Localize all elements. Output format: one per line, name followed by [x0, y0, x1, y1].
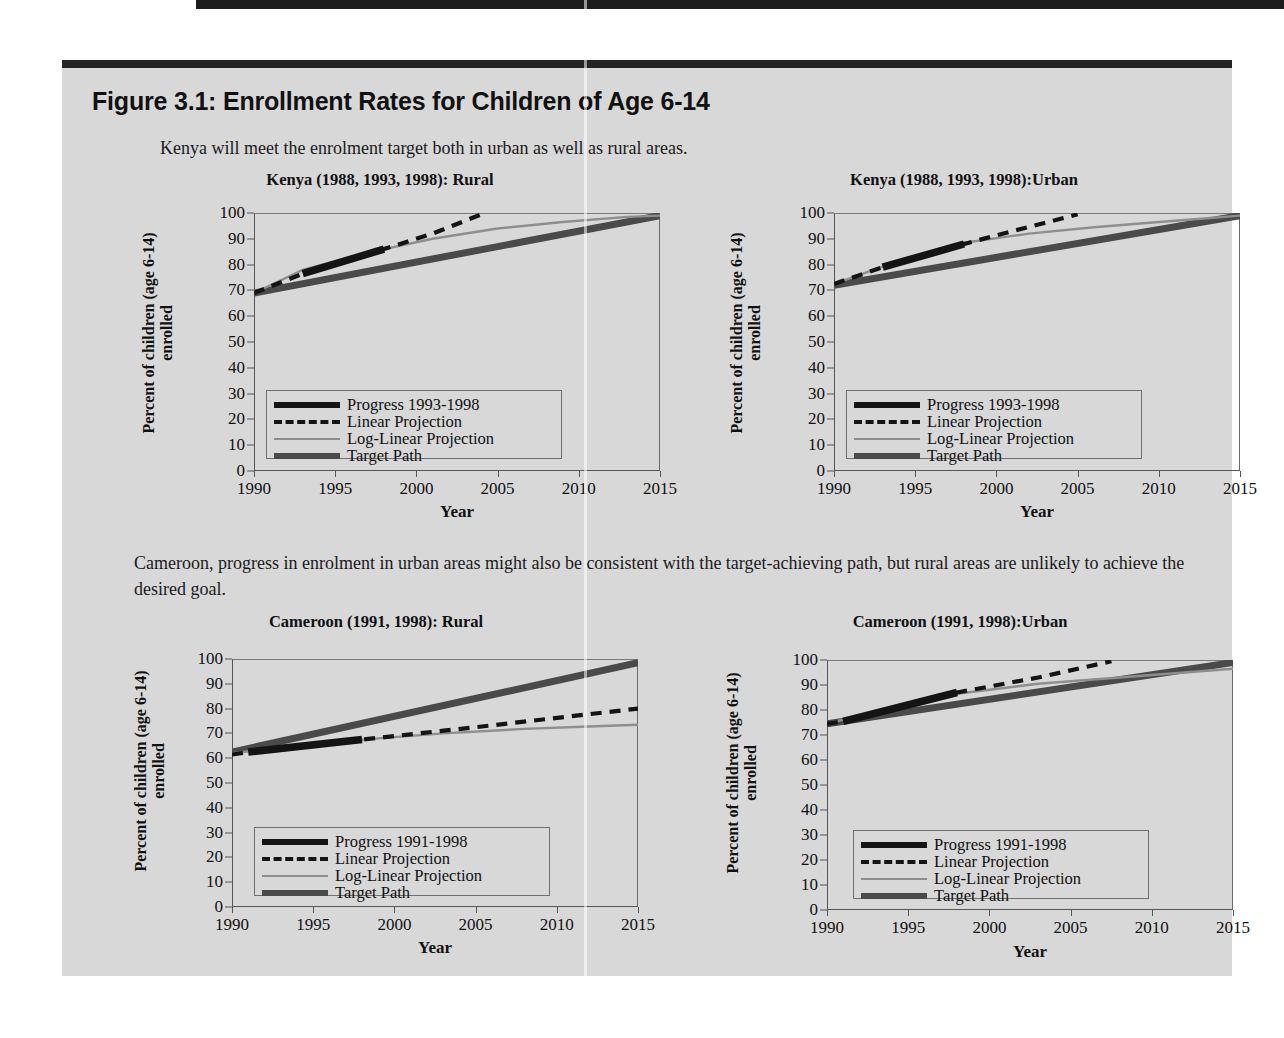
ytick-label: 90 — [228, 229, 254, 249]
xtick-label: 1995 — [296, 907, 330, 935]
plot-area-cameroon-rural: 0 10 20 30 40 50 60 70 80 90 100 1990 19… — [232, 659, 638, 907]
legend-swatch-linear-icon — [854, 415, 920, 429]
ytick-label: 20 — [801, 850, 827, 870]
ytick-label: 70 — [228, 280, 254, 300]
legend-item: Progress 1991-1998 — [861, 836, 1140, 853]
legend-item: Target Path — [274, 447, 553, 464]
legend-swatch-target-icon — [861, 889, 927, 903]
y-axis-title-line1: Percent of children (age 6-14) — [724, 672, 741, 873]
legend-swatch-linear-icon — [861, 855, 927, 869]
ytick-label: 20 — [228, 409, 254, 429]
ytick-label: 100 — [220, 203, 255, 223]
legend-swatch-target-icon — [262, 886, 328, 900]
legend-item: Log-Linear Projection — [854, 430, 1133, 447]
legend-label: Target Path — [347, 446, 422, 466]
legend-item: Progress 1993-1998 — [274, 396, 553, 413]
legend-swatch-progress-icon — [262, 835, 328, 849]
legend-swatch-linear-icon — [262, 852, 328, 866]
ytick-label: 60 — [206, 748, 232, 768]
legend-cameroon-urban: Progress 1991-1998 Linear Projection Log… — [853, 830, 1149, 899]
legend-item: Log-Linear Projection — [262, 867, 541, 884]
lead-paragraph-kenya: Kenya will meet the enrolment target bot… — [160, 135, 1160, 161]
xtick-label: 1990 — [215, 907, 249, 935]
legend-swatch-loglinear-icon — [274, 432, 340, 446]
series-target-path — [827, 663, 1233, 724]
y-axis-title: Percent of children (age 6-14) enrolled — [132, 646, 169, 896]
ytick-label: 40 — [206, 798, 232, 818]
ytick-label: 10 — [228, 435, 254, 455]
legend-item: Progress 1993-1998 — [854, 396, 1133, 413]
lead-paragraph-cameroon: Cameroon, progress in enrolment in urban… — [134, 550, 1204, 602]
xtick-label: 2000 — [399, 471, 433, 499]
figure-title: Figure 3.1: Enrollment Rates for Childre… — [92, 87, 710, 116]
legend-item: Target Path — [854, 447, 1133, 464]
ytick-label: 70 — [801, 725, 827, 745]
legend-label: Target Path — [335, 883, 410, 903]
xtick-label: 2005 — [481, 471, 515, 499]
ytick-label: 60 — [808, 306, 834, 326]
ytick-label: 50 — [801, 775, 827, 795]
x-axis-title: Year — [827, 942, 1233, 962]
series-target-path — [254, 216, 660, 293]
legend-kenya-rural: Progress 1993-1998 Linear Projection Log… — [266, 390, 562, 459]
xtick-label: 2000 — [979, 471, 1013, 499]
xtick-label: 2010 — [562, 471, 596, 499]
legend-item: Target Path — [861, 887, 1140, 904]
ytick-label: 90 — [801, 675, 827, 695]
y-axis-title-line2: enrolled — [158, 208, 176, 458]
legend-item: Linear Projection — [861, 853, 1140, 870]
ytick-label: 20 — [206, 847, 232, 867]
ytick-label: 50 — [228, 332, 254, 352]
ytick-label: 80 — [801, 700, 827, 720]
ytick-label: 30 — [808, 384, 834, 404]
ytick-label: 30 — [206, 823, 232, 843]
legend-item: Log-Linear Projection — [861, 870, 1140, 887]
figure-panel: Figure 3.1: Enrollment Rates for Childre… — [62, 60, 1232, 976]
legend-item: Linear Projection — [262, 850, 541, 867]
legend-kenya-urban: Progress 1993-1998 Linear Projection Log… — [846, 390, 1142, 459]
legend-swatch-progress-icon — [274, 398, 340, 412]
ytick-label: 80 — [808, 255, 834, 275]
xtick-label: 2015 — [1216, 910, 1250, 938]
legend-swatch-progress-icon — [861, 838, 927, 852]
plot-area-cameroon-urban: 0 10 20 30 40 50 60 70 80 90 100 1990 19… — [827, 660, 1233, 910]
ytick-label: 70 — [206, 723, 232, 743]
legend-label: Target Path — [927, 446, 1002, 466]
ytick-label: 10 — [801, 875, 827, 895]
chart-kenya-rural: Kenya (1988, 1993, 1998): Rural 0 10 20 … — [122, 170, 682, 510]
chart-cameroon-urban: Cameroon (1991, 1998):Urban 0 10 20 30 4… — [710, 612, 1270, 967]
ytick-label: 100 — [198, 649, 233, 669]
xtick-label: 2015 — [643, 471, 677, 499]
ytick-label: 50 — [808, 332, 834, 352]
xtick-label: 1990 — [817, 471, 851, 499]
xtick-label: 1990 — [237, 471, 271, 499]
ytick-label: 70 — [808, 280, 834, 300]
y-axis-title: Percent of children (age 6-14) enrolled — [724, 648, 761, 898]
ytick-label: 90 — [808, 229, 834, 249]
legend-item: Target Path — [262, 884, 541, 901]
chart-kenya-urban: Kenya (1988, 1993, 1998):Urban 0 10 20 3… — [710, 170, 1270, 510]
xtick-label: 2015 — [621, 907, 655, 935]
ytick-label: 100 — [793, 650, 828, 670]
legend-item: Linear Projection — [854, 413, 1133, 430]
x-axis-title: Year — [834, 502, 1240, 522]
xtick-label: 2010 — [1142, 471, 1176, 499]
y-axis-title: Percent of children (age 6-14) enrolled — [728, 208, 765, 458]
legend-label: Target Path — [934, 886, 1009, 906]
ytick-label: 30 — [801, 825, 827, 845]
x-axis-title: Year — [232, 938, 638, 958]
xtick-label: 1995 — [891, 910, 925, 938]
y-axis-title-line2: enrolled — [150, 646, 168, 896]
legend-swatch-loglinear-icon — [861, 872, 927, 886]
xtick-label: 2010 — [540, 907, 574, 935]
legend-swatch-target-icon — [854, 449, 920, 463]
ytick-label: 30 — [228, 384, 254, 404]
legend-swatch-loglinear-icon — [262, 869, 328, 883]
xtick-label: 1995 — [318, 471, 352, 499]
ytick-label: 80 — [206, 699, 232, 719]
xtick-label: 2005 — [1061, 471, 1095, 499]
plot-area-kenya-urban: 0 10 20 30 40 50 60 70 80 90 100 1990 19… — [834, 213, 1240, 471]
page-top-rule — [196, 0, 1284, 9]
legend-swatch-target-icon — [274, 449, 340, 463]
ytick-label: 40 — [801, 800, 827, 820]
